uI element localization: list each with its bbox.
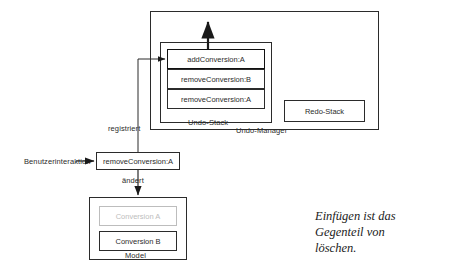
diagram-canvas: Undo-Manager Undo-Stack addConversion:A … <box>0 0 473 276</box>
caption-text: Einfügen ist das Gegenteil von löschen. <box>315 208 465 256</box>
registriert-connector <box>138 59 165 152</box>
